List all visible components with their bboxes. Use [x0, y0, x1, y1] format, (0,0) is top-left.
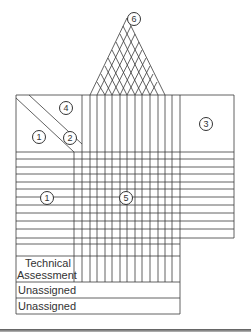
roof-correlation-matrix [90, 18, 165, 95]
unassigned-row-2-label: Unassigned [18, 300, 76, 313]
room-1-top-marker: 1 [32, 130, 46, 144]
room-3-marker: 3 [199, 117, 213, 131]
room-6-marker: 6 [127, 12, 141, 26]
room-2-marker: 2 [63, 131, 77, 145]
diagonal-band [16, 95, 82, 282]
room-4-marker: 4 [59, 101, 73, 115]
room-1-bottom-marker: 1 [40, 191, 54, 205]
unassigned-row-1-label: Unassigned [18, 284, 76, 297]
house-of-quality-diagram [0, 0, 251, 332]
center-columns [82, 95, 172, 282]
room-5-marker: 5 [119, 191, 133, 205]
technical-assessment-label-line2: Assessment [17, 269, 77, 282]
